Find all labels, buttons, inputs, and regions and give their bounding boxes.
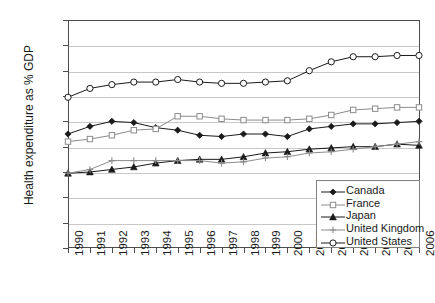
x-tick-mark <box>265 248 266 253</box>
x-tick-mark <box>178 248 179 253</box>
data-point <box>109 82 115 88</box>
x-tick-label: 1999 <box>270 230 282 256</box>
data-point <box>306 68 312 74</box>
data-point <box>416 105 421 110</box>
data-point <box>197 79 203 85</box>
x-tick-mark <box>375 248 376 253</box>
data-point <box>196 157 203 164</box>
legend-marker-icon <box>320 209 346 221</box>
legend-marker-icon <box>320 184 346 196</box>
legend-item-united-kingdom[interactable]: United Kingdom <box>320 222 419 235</box>
x-tick-mark <box>68 248 69 253</box>
x-tick-mark <box>353 248 354 253</box>
data-point <box>131 79 137 85</box>
data-point <box>328 59 334 65</box>
data-point <box>240 131 246 137</box>
data-point <box>131 120 137 126</box>
data-point <box>131 128 136 133</box>
x-tick-label: 2006 <box>424 230 435 256</box>
data-point <box>131 157 138 164</box>
legend-marker-icon <box>320 235 346 247</box>
data-point <box>65 94 71 100</box>
data-point <box>263 117 268 122</box>
x-tick-mark <box>397 248 398 253</box>
data-point <box>218 80 224 86</box>
data-point <box>65 131 71 137</box>
data-point <box>372 54 378 60</box>
x-tick-label: 1993 <box>139 230 151 256</box>
data-point <box>175 127 181 133</box>
data-point <box>372 121 378 127</box>
series-france <box>65 105 421 145</box>
data-point <box>219 116 224 121</box>
data-point <box>330 202 335 207</box>
data-point <box>350 54 356 60</box>
legend-label: Japan <box>346 209 376 221</box>
legend-label: United States <box>346 235 412 247</box>
data-point <box>197 132 203 138</box>
data-point <box>284 133 290 139</box>
x-tick-mark <box>244 248 245 253</box>
series-line <box>68 55 419 97</box>
data-point <box>416 52 422 58</box>
x-tick-mark <box>331 248 332 253</box>
data-point <box>218 133 224 139</box>
data-point <box>175 76 181 82</box>
x-tick-mark <box>287 248 288 253</box>
x-tick-mark <box>222 248 223 253</box>
x-tick-mark <box>156 248 157 253</box>
data-point <box>65 139 70 144</box>
x-tick-mark <box>309 248 310 253</box>
data-point <box>241 117 246 122</box>
series-united-states <box>65 52 422 100</box>
data-point <box>394 52 400 58</box>
data-point <box>87 123 93 129</box>
legend-marker-icon <box>320 222 346 234</box>
x-tick-label: 1996 <box>205 230 217 256</box>
data-point <box>394 105 399 110</box>
data-point <box>330 189 336 195</box>
data-point <box>109 118 115 124</box>
x-tick-label: 1997 <box>227 230 239 256</box>
legend: CanadaFranceJapanUnited KingdomUnited St… <box>316 180 420 248</box>
legend-item-japan[interactable]: Japan <box>320 209 419 222</box>
x-tick-mark <box>200 248 201 253</box>
data-point <box>197 114 202 119</box>
data-point <box>285 117 290 122</box>
data-point <box>394 120 400 126</box>
y-axis-label: Health expenditure as % GDP <box>22 10 36 240</box>
data-point <box>330 227 337 234</box>
legend-label: United Kingdom <box>346 222 424 234</box>
data-point <box>87 136 92 141</box>
data-point <box>175 114 180 119</box>
legend-label: Canada <box>346 184 385 196</box>
data-point <box>284 78 290 84</box>
legend-item-france[interactable]: France <box>320 197 419 210</box>
legend-label: France <box>346 197 380 209</box>
x-tick-label: 2000 <box>292 230 304 256</box>
data-point <box>416 118 422 124</box>
data-point <box>87 85 93 91</box>
data-point <box>307 116 312 121</box>
data-point <box>329 112 334 117</box>
data-point <box>306 126 312 132</box>
x-tick-label: 1991 <box>95 230 107 256</box>
x-tick-mark <box>134 248 135 253</box>
data-point <box>262 79 268 85</box>
x-tick-mark <box>112 248 113 253</box>
data-point <box>330 240 336 246</box>
series-japan <box>65 141 423 176</box>
data-point <box>416 138 423 145</box>
x-tick-label: 1994 <box>161 230 173 256</box>
data-point <box>153 126 158 131</box>
data-point <box>350 107 355 112</box>
data-point <box>240 80 246 86</box>
chart-figure: Health expenditure as % GDP 0.02.04.06.0… <box>0 0 435 303</box>
data-point <box>350 121 356 127</box>
x-tick-label: 1998 <box>249 230 261 256</box>
x-tick-label: 1990 <box>73 230 85 256</box>
legend-marker-icon <box>320 197 346 209</box>
legend-item-canada[interactable]: Canada <box>320 184 419 197</box>
data-point <box>372 106 377 111</box>
legend-item-united-states[interactable]: United States <box>320 234 419 247</box>
